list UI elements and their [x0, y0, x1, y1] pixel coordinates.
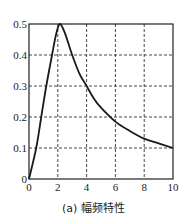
x-tick-label: 4	[84, 181, 90, 193]
y-tick-label: 0.5	[13, 18, 27, 30]
y-tick-label: 0.2	[13, 111, 27, 123]
amplitude-curve	[29, 24, 173, 179]
x-tick-label: 6	[113, 181, 119, 193]
y-tick-label: 0.4	[13, 49, 27, 61]
y-tick-label: 0	[22, 173, 28, 185]
figure-caption: (a) 幅频特性	[0, 199, 187, 215]
x-tick-label: 0	[26, 181, 32, 193]
x-tick-label: 10	[168, 181, 180, 193]
y-tick-label: 0.1	[13, 142, 27, 154]
y-axis-ticks: 00.10.20.30.40.5	[13, 18, 27, 185]
x-tick-label: 2	[55, 181, 61, 193]
grid-lines	[29, 24, 173, 179]
plot-frame	[29, 24, 173, 179]
y-tick-label: 0.3	[13, 80, 27, 92]
amplitude-frequency-chart: 0246810 00.10.20.30.40.5	[0, 0, 187, 200]
x-tick-label: 8	[141, 181, 147, 193]
x-axis-ticks: 0246810	[26, 181, 179, 193]
